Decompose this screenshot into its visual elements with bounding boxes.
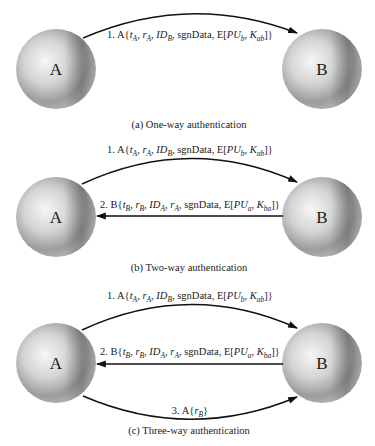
message-2-label: 2. B{tB​, rB​, IDA​, rA​, sgnData, E[PUa… [100,199,280,213]
caption-three-way: (c) Three-way authentication [128,425,250,437]
diagram-canvas: A B 1. A{tA​, rA​, IDB​, sgnData, E[PUb​… [0,0,375,446]
caption-two-way: (b) Two-way authentication [131,262,248,274]
panel-two-way: A B 1. A{tA​, rA​, IDB​, sgnData, E[PUb​… [16,144,362,274]
panel-three-way: A B 1. A{tA​, rA​, IDB​, sgnData, E[PUb​… [16,290,362,437]
panel-one-way: A B 1. A{tA​, rA​, IDB​, sgnData, E[PUb​… [16,14,362,131]
authentication-diagram: A B 1. A{tA​, rA​, IDB​, sgnData, E[PUb​… [0,0,375,446]
node-b: B [282,323,362,403]
node-b-label: B [316,208,327,227]
message-1-label: 1. A{tA​, rA​, IDB​, sgnData, E[PUb​, Ka… [107,29,273,43]
arrow-a-to-b-icon [82,304,297,330]
node-a-label: A [50,60,63,79]
node-a-label: A [50,354,63,373]
node-b-label: B [316,60,327,79]
message-1-label: 1. A{tA​, rA​, IDB​, sgnData, E[PUb​, Ka… [107,290,273,304]
node-a: A [16,323,96,403]
message-1-label: 1. A{tA​, rA​, IDB​, sgnData, E[PUb​, Ka… [107,144,273,158]
message-3-label: 3. A{rB​} [172,405,208,419]
node-a: A [16,177,96,257]
node-b: B [282,177,362,257]
node-a: A [16,29,96,109]
node-a-label: A [50,208,63,227]
node-b: B [282,29,362,109]
message-2-label: 2. B{tB​, rB​, IDA​, rA​, sgnData, E[PUa… [100,346,280,360]
arrow-a-to-b-icon [82,158,297,184]
node-b-label: B [316,354,327,373]
caption-one-way: (a) One-way authentication [132,119,248,131]
